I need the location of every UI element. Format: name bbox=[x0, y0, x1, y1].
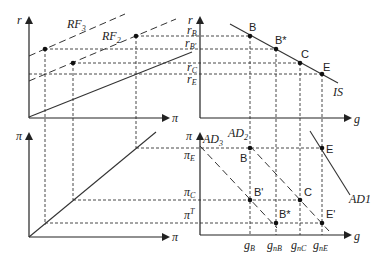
tick-pi-e: πE bbox=[184, 148, 195, 163]
bottom-left-x-label: π bbox=[172, 230, 179, 244]
four-quadrant-diagram: r π r g π π π g RF3 RF2 rB rB' rC rE B B… bbox=[0, 0, 381, 263]
ad3-curve bbox=[200, 146, 277, 228]
guide-lines bbox=[29, 36, 322, 235]
point-label-b-prime: B' bbox=[254, 186, 263, 198]
point-label-b-top: B bbox=[249, 21, 256, 33]
tick-g-nb: gnB bbox=[267, 238, 282, 253]
ad3-label: AD3 bbox=[202, 132, 223, 148]
bottom-right-x-label: g bbox=[354, 229, 360, 243]
bottom-right-y-label: π bbox=[186, 129, 193, 143]
point-label-e-top: E bbox=[323, 61, 330, 73]
tick-g-b: gB bbox=[244, 238, 255, 253]
point-label-bstar: B* bbox=[279, 208, 291, 220]
point-label-bstar-top: B* bbox=[275, 34, 287, 46]
point-label-c: C bbox=[304, 186, 312, 198]
ad2-label: AD2 bbox=[227, 126, 248, 142]
rf1-curve bbox=[29, 52, 192, 117]
rf3-label: RF3 bbox=[66, 17, 86, 33]
rf2-label: RF2 bbox=[101, 29, 121, 45]
point-label-e: E bbox=[326, 143, 333, 155]
tick-g-nc: gnC bbox=[291, 238, 307, 253]
point-label-b: B bbox=[240, 152, 247, 164]
ad1-label: AD1 bbox=[348, 192, 371, 206]
top-left-y-label: r bbox=[17, 13, 22, 27]
is-label: IS bbox=[332, 85, 343, 99]
tick-r-b-prime: rB' bbox=[185, 36, 197, 51]
point-label-c-top: C bbox=[301, 48, 309, 60]
top-right-x-label: g bbox=[354, 112, 360, 126]
top-left-x-label: π bbox=[172, 111, 179, 125]
bottom-left-y-label: π bbox=[16, 129, 23, 143]
point-label-e-prime: E' bbox=[326, 208, 335, 220]
tick-pi-c: πC bbox=[184, 185, 196, 200]
tick-g-ne: gnE bbox=[313, 238, 328, 253]
forty-five-degree-line bbox=[29, 132, 156, 237]
ad1-curve bbox=[310, 131, 350, 195]
tick-pi-t: πT bbox=[184, 207, 195, 222]
